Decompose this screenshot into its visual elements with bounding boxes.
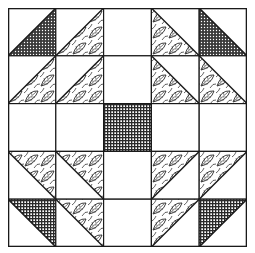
quilt-cell-3-4 <box>199 151 247 199</box>
quilt-cell-2-1 <box>56 104 104 152</box>
quilt-cell-1-4 <box>199 56 247 104</box>
quilt-cell-2-2 <box>104 104 152 152</box>
quilt-cell-1-3 <box>151 56 199 104</box>
quilt-cell-3-3 <box>151 151 199 199</box>
quilt-pattern-image <box>8 8 247 247</box>
quilt-cell-0-1 <box>56 8 104 56</box>
quilt-cell-1-2 <box>104 56 152 104</box>
quilt-cell-4-4 <box>199 199 247 247</box>
quilt-cell-0-2 <box>104 8 152 56</box>
quilt-cell-1-1 <box>56 56 104 104</box>
quilt-cell-4-0 <box>8 199 56 247</box>
quilt-cell-4-1 <box>56 199 104 247</box>
quilt-cell-2-0 <box>8 104 56 152</box>
quilt-cell-2-4 <box>199 104 247 152</box>
quilt-cell-3-0 <box>8 151 56 199</box>
quilt-cell-4-3 <box>151 199 199 247</box>
quilt-cell-0-4 <box>199 8 247 56</box>
quilt-cell-4-2 <box>104 199 152 247</box>
quilt-block <box>8 8 247 247</box>
quilt-cell-2-3 <box>151 104 199 152</box>
quilt-cell-0-0 <box>8 8 56 56</box>
quilt-cell-0-3 <box>151 8 199 56</box>
quilt-cell-1-0 <box>8 56 56 104</box>
quilt-cell-3-2 <box>104 151 152 199</box>
quilt-cell-3-1 <box>56 151 104 199</box>
